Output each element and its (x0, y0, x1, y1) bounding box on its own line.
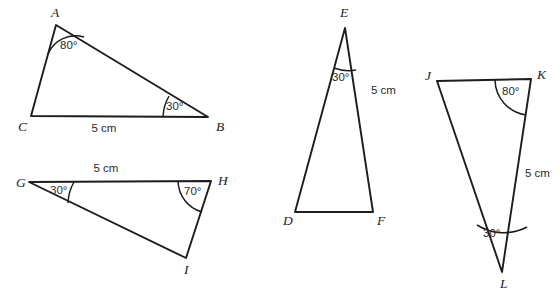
angle-label-l-30: 30° (483, 227, 500, 239)
angle-arc-g-30 (68, 182, 74, 203)
triangle-def-outline (295, 28, 373, 212)
vertex-label-c: C (18, 119, 28, 134)
angle-label-h-70: 70° (184, 185, 201, 197)
angle-label-b-30: 30° (166, 100, 183, 112)
side-label-kl-5cm: 5 cm (525, 167, 550, 179)
figure-triangle-jkl: J K L 80° 30° 5 cm (425, 67, 550, 291)
vertex-label-d: D (282, 213, 293, 228)
side-label-gh-5cm: 5 cm (94, 162, 119, 174)
figure-triangle-abc: A C B 80° 30° 5 cm (18, 5, 224, 134)
triangles-figure-group: A C B 80° 30° 5 cm G H I 30° 70° 5 cm (0, 0, 558, 295)
vertex-label-f: F (376, 213, 386, 228)
side-label-ef-5cm: 5 cm (371, 84, 396, 96)
triangle-jkl-outline (437, 79, 531, 272)
angle-label-a-80: 80° (60, 39, 77, 51)
vertex-label-e: E (339, 5, 349, 20)
vertex-label-h: H (217, 173, 229, 188)
vertex-label-b: B (216, 119, 224, 134)
vertex-label-l: L (499, 276, 508, 291)
vertex-label-g: G (16, 175, 26, 190)
diagram-canvas: A C B 80° 30° 5 cm G H I 30° 70° 5 cm (0, 0, 558, 295)
angle-label-g-30: 30° (50, 184, 67, 196)
vertex-label-j: J (425, 68, 432, 83)
angle-label-e-30: 30° (332, 71, 349, 83)
angle-label-k-80: 80° (502, 85, 519, 97)
vertex-label-a: A (50, 5, 60, 20)
side-label-cb-5cm: 5 cm (92, 122, 117, 134)
vertex-label-k: K (536, 67, 547, 82)
vertex-label-i: I (183, 262, 190, 277)
figure-triangle-ghi: G H I 30° 70° 5 cm (16, 162, 229, 277)
figure-triangle-def: E D F 30° 5 cm (282, 5, 396, 228)
